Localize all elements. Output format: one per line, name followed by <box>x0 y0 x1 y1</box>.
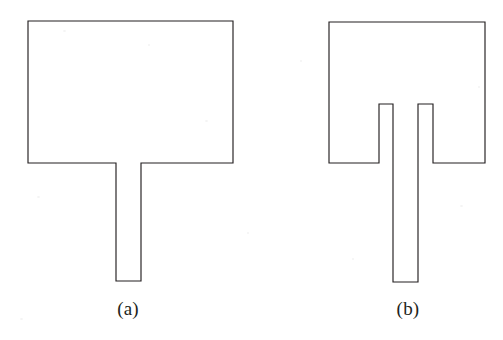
panel-b-caption: (b) <box>368 299 448 318</box>
figure-canvas: (a) (b) <box>0 0 503 340</box>
antenna-figure-svg <box>0 0 503 340</box>
panel-a-caption: (a) <box>88 299 168 318</box>
